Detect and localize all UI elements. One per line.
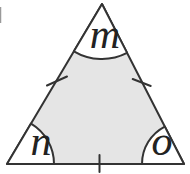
angle-label-m: m [90,11,120,57]
angle-label-n: n [31,118,52,164]
angle-label-o: o [152,118,173,164]
triangle-diagram: m n o [0,0,190,174]
geometry-figure: m n o [0,0,190,174]
